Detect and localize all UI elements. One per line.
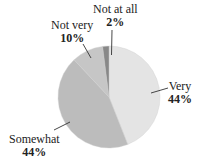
label-very-pct: 44% <box>168 93 192 106</box>
label-not-very-pct: 10% <box>51 32 93 45</box>
label-not-at-all: Not at all 2% <box>93 3 138 29</box>
label-somewhat-pct: 44% <box>9 146 60 159</box>
pie-slices <box>58 46 160 148</box>
label-not-at-all-pct: 2% <box>93 16 138 29</box>
label-not-very: Not very 10% <box>51 19 93 45</box>
label-very: Very 44% <box>168 80 192 106</box>
label-somewhat: Somewhat 44% <box>9 133 60 159</box>
leader-line-not-at-all <box>112 30 113 55</box>
